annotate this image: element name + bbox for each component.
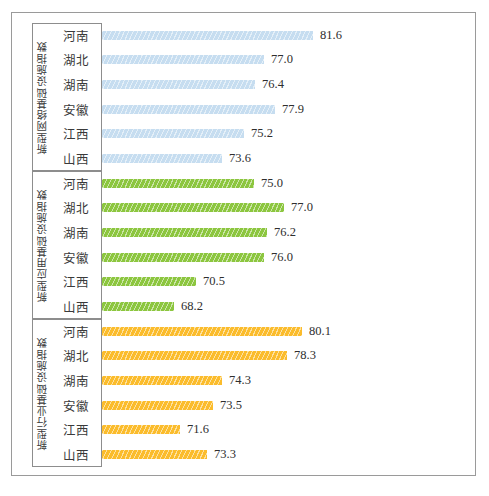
bar-row: 江西70.5 bbox=[54, 270, 468, 295]
chart-group: 新型应用基础设施指数河南75.0湖北77.0湖南76.2安徽76.0江西70.5… bbox=[32, 171, 468, 319]
bar-value-label: 75.2 bbox=[251, 126, 273, 141]
bar-row: 江西71.6 bbox=[54, 418, 468, 443]
group-axis-label-text: 新型应用基础设施指数 bbox=[38, 189, 49, 302]
bar-track: 73.3 bbox=[102, 442, 468, 467]
bar-track: 75.0 bbox=[102, 171, 468, 196]
bar-track: 74.3 bbox=[102, 368, 468, 393]
bar[interactable] bbox=[102, 179, 254, 188]
bar-row: 安徽77.9 bbox=[54, 97, 468, 122]
bar-value-label: 68.2 bbox=[181, 299, 203, 314]
category-label: 湖南 bbox=[54, 75, 102, 94]
chart-group: 新型网络基础设施指数河南81.6湖北77.0湖南76.4安徽77.9江西75.2… bbox=[32, 23, 468, 171]
category-label: 安徽 bbox=[54, 100, 102, 119]
bar-value-label: 71.6 bbox=[187, 422, 209, 437]
bar-row: 山西73.6 bbox=[54, 146, 468, 171]
bar-row: 湖南76.4 bbox=[54, 72, 468, 97]
bar-rows: 河南80.1湖北78.3湖南74.3安徽73.5江西71.6山西73.3 bbox=[54, 319, 468, 467]
bar-row: 山西68.2 bbox=[54, 294, 468, 319]
bar-value-label: 77.9 bbox=[282, 102, 304, 117]
bar[interactable] bbox=[102, 376, 222, 385]
bar-value-label: 78.3 bbox=[294, 348, 316, 363]
category-label: 河南 bbox=[54, 26, 102, 45]
category-label: 河南 bbox=[54, 174, 102, 193]
bar-track: 77.0 bbox=[102, 48, 468, 73]
bar-value-label: 81.6 bbox=[320, 28, 342, 43]
bar[interactable] bbox=[102, 425, 180, 434]
bar[interactable] bbox=[102, 401, 213, 410]
bar-track: 78.3 bbox=[102, 344, 468, 369]
bar-track: 80.1 bbox=[102, 319, 468, 344]
chart-plot-frame: 新型网络基础设施指数河南81.6湖北77.0湖南76.4安徽77.9江西75.2… bbox=[11, 12, 476, 476]
bar-track: 68.2 bbox=[102, 294, 468, 319]
bar-row: 安徽76.0 bbox=[54, 245, 468, 270]
bar-row: 湖南74.3 bbox=[54, 368, 468, 393]
group-axis-label-text: 新型网络基础设施指数 bbox=[38, 41, 49, 154]
group-axis-label: 新型行业基础设施指数 bbox=[32, 319, 54, 467]
bar-value-label: 73.6 bbox=[229, 151, 251, 166]
bar-row: 湖北77.0 bbox=[54, 196, 468, 221]
bar-track: 70.5 bbox=[102, 270, 468, 295]
chart-group-list: 新型网络基础设施指数河南81.6湖北77.0湖南76.4安徽77.9江西75.2… bbox=[32, 23, 468, 467]
category-label: 江西 bbox=[54, 124, 102, 143]
category-label: 河南 bbox=[54, 322, 102, 341]
bar[interactable] bbox=[102, 80, 255, 89]
bar-track: 75.2 bbox=[102, 122, 468, 147]
category-label: 安徽 bbox=[54, 248, 102, 267]
bar-value-label: 76.2 bbox=[274, 225, 296, 240]
bar-rows: 河南81.6湖北77.0湖南76.4安徽77.9江西75.2山西73.6 bbox=[54, 23, 468, 171]
category-label: 江西 bbox=[54, 420, 102, 439]
bar-row: 湖南76.2 bbox=[54, 220, 468, 245]
bar[interactable] bbox=[102, 228, 267, 237]
bar-row: 湖北77.0 bbox=[54, 48, 468, 73]
category-label: 湖北 bbox=[54, 198, 102, 217]
bar-row: 江西75.2 bbox=[54, 122, 468, 147]
bar-value-label: 70.5 bbox=[203, 274, 225, 289]
bar[interactable] bbox=[102, 351, 287, 360]
bar[interactable] bbox=[102, 327, 302, 336]
bar-value-label: 73.3 bbox=[214, 447, 236, 462]
bar[interactable] bbox=[102, 31, 313, 40]
bar-track: 81.6 bbox=[102, 23, 468, 48]
chart-group: 新型行业基础设施指数河南80.1湖北78.3湖南74.3安徽73.5江西71.6… bbox=[32, 319, 468, 467]
bar[interactable] bbox=[102, 277, 196, 286]
bar-row: 河南80.1 bbox=[54, 319, 468, 344]
category-label: 山西 bbox=[54, 297, 102, 316]
bar[interactable] bbox=[102, 253, 264, 262]
bar-value-label: 77.0 bbox=[271, 52, 293, 67]
bar[interactable] bbox=[102, 55, 264, 64]
bar-value-label: 76.0 bbox=[271, 250, 293, 265]
bar[interactable] bbox=[102, 129, 244, 138]
bar[interactable] bbox=[102, 154, 222, 163]
category-label: 山西 bbox=[54, 149, 102, 168]
bar-row: 河南75.0 bbox=[54, 171, 468, 196]
bar-track: 73.6 bbox=[102, 146, 468, 171]
category-label: 湖南 bbox=[54, 371, 102, 390]
bar-value-label: 76.4 bbox=[262, 77, 284, 92]
bar-value-label: 80.1 bbox=[309, 324, 331, 339]
bar-row: 山西73.3 bbox=[54, 442, 468, 467]
bar[interactable] bbox=[102, 105, 275, 114]
bar[interactable] bbox=[102, 450, 207, 459]
bar-track: 77.0 bbox=[102, 196, 468, 221]
bar[interactable] bbox=[102, 203, 284, 212]
bar-value-label: 74.3 bbox=[229, 373, 251, 388]
bar-value-label: 75.0 bbox=[261, 176, 283, 191]
bar-rows: 河南75.0湖北77.0湖南76.2安徽76.0江西70.5山西68.2 bbox=[54, 171, 468, 319]
bar-row: 河南81.6 bbox=[54, 23, 468, 48]
group-axis-label: 新型应用基础设施指数 bbox=[32, 171, 54, 319]
bar[interactable] bbox=[102, 302, 174, 311]
bar-track: 76.0 bbox=[102, 245, 468, 270]
category-label: 湖南 bbox=[54, 223, 102, 242]
bar-row: 安徽73.5 bbox=[54, 393, 468, 418]
group-axis-label: 新型网络基础设施指数 bbox=[32, 23, 54, 171]
bar-value-label: 77.0 bbox=[291, 200, 313, 215]
bar-track: 76.2 bbox=[102, 220, 468, 245]
bar-track: 77.9 bbox=[102, 97, 468, 122]
bar-track: 76.4 bbox=[102, 72, 468, 97]
bar-value-label: 73.5 bbox=[220, 398, 242, 413]
bar-row: 湖北78.3 bbox=[54, 344, 468, 369]
category-label: 江西 bbox=[54, 272, 102, 291]
category-label: 湖北 bbox=[54, 50, 102, 69]
category-label: 湖北 bbox=[54, 346, 102, 365]
category-label: 安徽 bbox=[54, 396, 102, 415]
